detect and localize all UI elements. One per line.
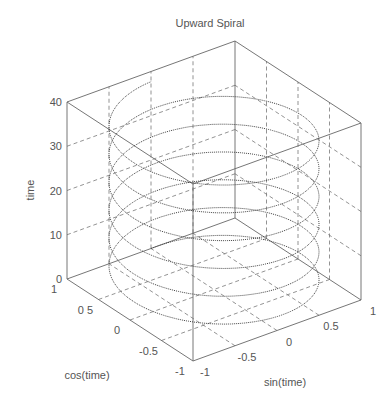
chart-title: Upward Spiral [175,17,244,29]
svg-text:20: 20 [50,185,62,197]
helix-line [109,82,319,324]
svg-text:1: 1 [51,283,57,295]
svg-text:30: 30 [50,140,62,152]
svg-text:0.5: 0.5 [323,320,338,332]
z-axis-label: time [24,180,36,201]
svg-text:40: 40 [50,96,62,108]
svg-text:-1: -1 [175,365,185,377]
spiral-3d-plot: Upward Spiral 01020304010 50-0.5-1-1-0.5… [0,0,389,407]
svg-text:0: 0 [286,336,292,348]
grid-lines [67,56,361,346]
svg-text:0 5: 0 5 [78,304,93,316]
x-axis-label: sin(time) [264,376,306,388]
svg-text:1: 1 [370,305,376,317]
svg-text:-0.5: -0.5 [238,351,257,363]
tick-labels: 01020304010 50-0.5-1-1-0.500.51 [50,96,376,378]
svg-text:-0.5: -0.5 [139,345,158,357]
svg-text:0: 0 [114,324,120,336]
y-axis-label: cos(time) [64,369,109,381]
axes-box [67,41,361,361]
svg-text:-1: -1 [200,366,210,378]
svg-text:10: 10 [50,229,62,241]
